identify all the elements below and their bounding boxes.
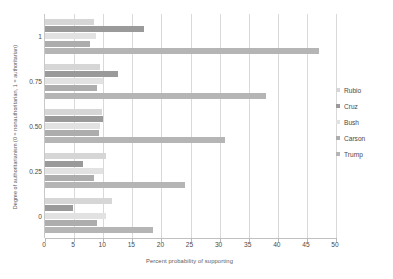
x-tick-label: 20 xyxy=(147,241,173,248)
x-tick-label: 10 xyxy=(89,241,115,248)
bar-chart: Degree of authoritarianism (0 = nonautho… xyxy=(0,0,393,279)
bar-bush-0 xyxy=(45,213,106,219)
x-tick-label: 25 xyxy=(177,241,203,248)
bar-cruz-0_75 xyxy=(45,71,118,77)
legend-label: Cruz xyxy=(344,103,358,110)
bar-bush-0_75 xyxy=(45,78,103,84)
legend-swatch-icon xyxy=(336,136,340,140)
bar-trump-0_50 xyxy=(45,137,225,143)
y-tick-label: 0.50 xyxy=(14,123,42,130)
legend-item-bush[interactable]: Bush xyxy=(336,114,392,130)
bar-trump-1 xyxy=(45,48,319,54)
bar-carson-0 xyxy=(45,220,97,226)
bar-rubio-1 xyxy=(45,19,94,25)
x-tick-label: 30 xyxy=(206,241,232,248)
legend-label: Carson xyxy=(344,135,365,142)
x-tick-label: 15 xyxy=(118,241,144,248)
x-axis-title: Percent probability of supporting xyxy=(44,258,335,264)
legend-swatch-icon xyxy=(336,120,340,124)
y-tick-label: 0 xyxy=(14,212,42,219)
chart-legend: RubioCruzBushCarsonTrump xyxy=(336,82,392,162)
bar-rubio-0 xyxy=(45,198,112,204)
y-axis-tick-labels: 10.750.500.250 xyxy=(14,14,42,238)
x-tick-label: 50 xyxy=(322,241,348,248)
bar-carson-1 xyxy=(45,41,90,47)
y-tick-label: 0.75 xyxy=(14,78,42,85)
legend-label: Rubio xyxy=(344,87,361,94)
plot-area xyxy=(44,14,336,238)
bar-trump-0_75 xyxy=(45,93,266,99)
bar-rubio-0_75 xyxy=(45,64,100,70)
bar-carson-0_50 xyxy=(45,130,99,136)
bar-cruz-0_25 xyxy=(45,161,83,167)
x-tick-label: 5 xyxy=(60,241,86,248)
bar-rubio-0_50 xyxy=(45,109,102,115)
bar-cruz-1 xyxy=(45,26,144,32)
legend-item-rubio[interactable]: Rubio xyxy=(336,82,392,98)
x-tick-label: 40 xyxy=(264,241,290,248)
legend-swatch-icon xyxy=(336,104,340,108)
bar-carson-0_25 xyxy=(45,175,94,181)
bar-trump-0_25 xyxy=(45,182,185,188)
y-tick-label: 1 xyxy=(14,33,42,40)
legend-swatch-icon xyxy=(336,88,340,92)
legend-item-carson[interactable]: Carson xyxy=(336,130,392,146)
x-tick-label: 35 xyxy=(235,241,261,248)
bar-carson-0_75 xyxy=(45,85,97,91)
bar-cruz-0 xyxy=(45,205,73,211)
bar-bush-0_25 xyxy=(45,168,103,174)
bar-trump-0 xyxy=(45,227,153,233)
legend-item-cruz[interactable]: Cruz xyxy=(336,98,392,114)
x-tick-label: 0 xyxy=(31,241,57,248)
bar-bush-0_50 xyxy=(45,123,100,129)
plot-inner xyxy=(45,14,336,238)
legend-item-trump[interactable]: Trump xyxy=(336,146,392,162)
x-axis-tick-labels: 05101520253035404550 xyxy=(44,241,335,253)
legend-swatch-icon xyxy=(336,152,340,156)
bar-cruz-0_50 xyxy=(45,116,103,122)
bar-bush-1 xyxy=(45,33,96,39)
y-tick-label: 0.25 xyxy=(14,167,42,174)
legend-label: Trump xyxy=(344,151,363,158)
bar-rubio-0_25 xyxy=(45,153,106,159)
x-tick-label: 45 xyxy=(293,241,319,248)
legend-label: Bush xyxy=(344,119,359,126)
